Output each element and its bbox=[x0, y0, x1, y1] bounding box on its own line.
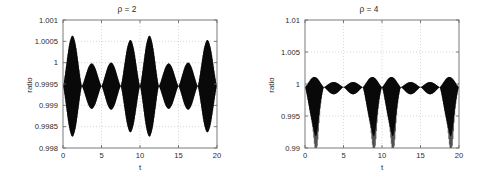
x-tick-label: 5 bbox=[99, 151, 103, 160]
x-tick-label: 0 bbox=[61, 151, 65, 160]
x-tick-label: 20 bbox=[213, 151, 221, 160]
x-tick-label: 5 bbox=[341, 151, 345, 160]
figure-root: ρ = 2 051015200.9980.99850.9990.999511.0… bbox=[0, 0, 484, 177]
yaxis-title-right: ratio bbox=[267, 77, 276, 93]
y-tick-label: 1.005 bbox=[281, 48, 300, 57]
yaxis-title-left: ratio bbox=[25, 77, 34, 93]
x-tick-label: 0 bbox=[303, 151, 307, 160]
chart-panel-right: ρ = 4 051015200.990.99511.0051.01 t rati… bbox=[242, 0, 484, 177]
x-tick-label: 15 bbox=[174, 151, 182, 160]
y-tick-label: 0.9985 bbox=[35, 122, 58, 131]
panel-title-left: ρ = 2 bbox=[118, 4, 137, 14]
xaxis-title-left: t bbox=[139, 163, 142, 172]
x-tick-label: 10 bbox=[136, 151, 144, 160]
chart-panel-left: ρ = 2 051015200.9980.99850.9990.999511.0… bbox=[0, 0, 242, 177]
y-tick-label: 0.995 bbox=[281, 112, 300, 121]
grid-group-right bbox=[305, 20, 459, 148]
x-tick-label: 20 bbox=[455, 151, 463, 160]
plot-svg-right: ρ = 4 051015200.990.99511.0051.01 t rati… bbox=[242, 0, 484, 177]
y-tick-label: 1.01 bbox=[285, 16, 300, 25]
plot-svg-left: ρ = 2 051015200.9980.99850.9990.999511.0… bbox=[0, 0, 242, 177]
x-tick-label: 15 bbox=[416, 151, 424, 160]
y-tick-label: 1.0005 bbox=[35, 37, 58, 46]
y-tick-label: 1 bbox=[54, 58, 58, 67]
y-tick-label: 1 bbox=[296, 80, 300, 89]
y-tick-label: 0.998 bbox=[39, 144, 58, 153]
y-tick-label: 0.99 bbox=[285, 144, 300, 153]
xaxis-title-right: t bbox=[381, 163, 384, 172]
y-tick-label: 0.999 bbox=[39, 101, 58, 110]
x-tick-label: 10 bbox=[378, 151, 386, 160]
y-tick-label: 1.001 bbox=[39, 16, 58, 25]
y-tick-label: 0.9995 bbox=[35, 80, 58, 89]
panel-title-right: ρ = 4 bbox=[360, 4, 379, 14]
